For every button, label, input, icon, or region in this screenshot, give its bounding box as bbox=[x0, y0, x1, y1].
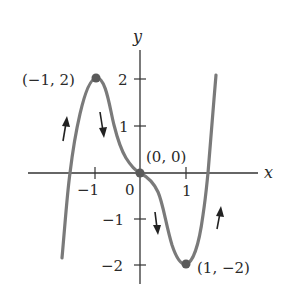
x-tick-label-0: 0 bbox=[125, 181, 135, 199]
y-tick-label-1: 1 bbox=[119, 118, 129, 136]
arrow-down-icon bbox=[99, 112, 107, 138]
local-max-label: (−1, 2) bbox=[22, 71, 75, 89]
y-tick-label-2: 2 bbox=[118, 71, 128, 89]
origin-label: (0, 0) bbox=[146, 148, 186, 166]
local-min-label: (1, −2) bbox=[197, 259, 250, 277]
local-max-point bbox=[92, 74, 101, 83]
arrow-up-icon bbox=[216, 206, 224, 229]
y-axis-label: y bbox=[132, 27, 143, 46]
arrow-down-icon bbox=[153, 212, 161, 235]
y-tick-label-neg1: −1 bbox=[102, 211, 124, 229]
y-tick-label-neg2: −2 bbox=[101, 257, 123, 275]
arrow-up-icon bbox=[62, 116, 70, 141]
x-axis-label: x bbox=[264, 163, 273, 182]
x-tick-label-neg1: −1 bbox=[77, 181, 99, 199]
function-graph: y x −1 0 1 2 1 −1 −2 (−1, 2) (0, 0) (1, … bbox=[0, 0, 281, 289]
x-tick-label-1: 1 bbox=[182, 182, 192, 200]
local-min-point bbox=[182, 260, 191, 269]
origin-point bbox=[136, 169, 145, 178]
